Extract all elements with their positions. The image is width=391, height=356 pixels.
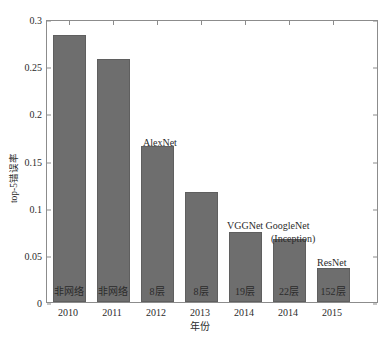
bar-2010 xyxy=(53,35,86,302)
y-tick-label-6: 0.3 xyxy=(30,16,48,26)
y-tick-mark-2 xyxy=(47,209,51,210)
y-tick-mark-right-5 xyxy=(373,68,377,69)
y-tick-label-1: 0.05 xyxy=(25,252,48,262)
bar-2011 xyxy=(97,59,130,302)
x-axis-label-6: 2015 xyxy=(322,307,342,319)
x-axis-label-3: 2013 xyxy=(190,307,210,319)
y-tick-mark-5 xyxy=(47,68,51,69)
bar-depth-label-1: 非网络 xyxy=(98,286,128,298)
x-tick-mark-top-3 xyxy=(201,21,202,25)
x-axis-label-1: 2011 xyxy=(102,307,122,319)
bar-depth-label-4: 19层 xyxy=(235,286,255,298)
bar-depth-label-6: 152层 xyxy=(321,286,346,298)
annotation-inception: (Inception) xyxy=(271,233,315,245)
x-axis-label-2: 2012 xyxy=(146,307,166,319)
y-axis-title: top-5错误率 xyxy=(9,153,19,203)
y-tick-mark-6 xyxy=(47,21,51,22)
x-tick-mark-top-5 xyxy=(289,21,290,25)
x-tick-mark-top-0 xyxy=(69,21,70,25)
annotation-alexnet: AlexNet xyxy=(143,137,177,149)
y-tick-mark-right-1 xyxy=(373,256,377,257)
y-tick-mark-0 xyxy=(47,304,51,305)
x-axis-label-4: 2014 xyxy=(234,307,254,319)
y-tick-label-0: 0 xyxy=(37,299,47,309)
chart-figure: 0 0.05 0.1 0.15 0.2 0.25 0.3 xyxy=(0,0,391,356)
page-bleed-text xyxy=(4,0,387,4)
y-tick-label-3: 0.15 xyxy=(25,158,48,168)
y-tick-mark-3 xyxy=(47,162,51,163)
plot-area: 0 0.05 0.1 0.15 0.2 0.25 0.3 xyxy=(46,20,378,303)
y-tick-mark-right-2 xyxy=(373,209,377,210)
annotation-vggnet-googlenet: VGGNet GoogleNet xyxy=(227,220,309,232)
y-tick-mark-1 xyxy=(47,256,51,257)
bar-depth-label-2: 8层 xyxy=(150,286,165,298)
bar-depth-label-5: 22层 xyxy=(279,286,299,298)
bar-2012 xyxy=(141,146,174,302)
y-tick-label-5: 0.25 xyxy=(25,63,48,73)
y-tick-mark-right-3 xyxy=(373,162,377,163)
bar-depth-label-3: 8层 xyxy=(194,286,209,298)
y-tick-mark-right-0 xyxy=(373,304,377,305)
x-axis-title: 年份 xyxy=(190,321,210,333)
y-tick-label-4: 0.2 xyxy=(30,110,48,120)
annotation-resnet: ResNet xyxy=(317,257,346,269)
x-axis-label-5: 2014 xyxy=(278,307,298,319)
x-tick-mark-top-6 xyxy=(333,21,334,25)
y-tick-mark-right-6 xyxy=(373,21,377,22)
x-axis-label-0: 2010 xyxy=(58,307,78,319)
bar-depth-label-0: 非网络 xyxy=(54,286,84,298)
y-tick-mark-4 xyxy=(47,115,51,116)
x-tick-mark-top-1 xyxy=(113,21,114,25)
x-tick-mark-top-4 xyxy=(245,21,246,25)
x-tick-mark-top-2 xyxy=(157,21,158,25)
y-tick-label-2: 0.1 xyxy=(30,205,48,215)
y-tick-mark-right-4 xyxy=(373,115,377,116)
